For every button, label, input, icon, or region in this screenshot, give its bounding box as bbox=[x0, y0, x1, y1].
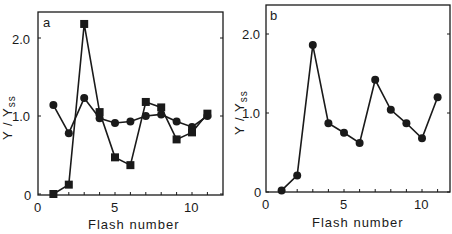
circle-marker bbox=[173, 117, 181, 125]
square-marker bbox=[49, 190, 57, 198]
y-axis-label-sub: ss bbox=[6, 95, 17, 107]
y-axis-label-main: Y / Y bbox=[0, 107, 15, 140]
panel-label: b bbox=[270, 8, 277, 23]
square-marker bbox=[80, 20, 88, 28]
y-axis-label-sub: ss bbox=[238, 90, 249, 102]
square-marker bbox=[111, 153, 119, 161]
x-tick-label: 10 bbox=[184, 200, 198, 215]
panel-label: a bbox=[43, 15, 51, 30]
square-marker bbox=[96, 108, 104, 116]
circle-marker bbox=[65, 129, 73, 137]
square-marker bbox=[65, 181, 73, 189]
circle-marker bbox=[340, 129, 348, 137]
data-series bbox=[49, 20, 211, 198]
square-marker bbox=[126, 161, 134, 169]
circle-marker bbox=[293, 171, 301, 179]
series-line-circles bbox=[282, 45, 438, 190]
square-marker bbox=[173, 135, 181, 143]
circle-marker bbox=[356, 139, 364, 147]
panel-a: a 0 5 10 0 1.0 2.0 Flash number Y / Yss bbox=[0, 12, 223, 232]
x-tick-label: 0 bbox=[34, 200, 41, 215]
circle-marker bbox=[371, 76, 379, 84]
x-tick-label: 5 bbox=[111, 200, 118, 215]
circle-marker bbox=[80, 94, 88, 102]
x-axis-label: Flash number bbox=[88, 217, 179, 232]
circle-marker bbox=[324, 119, 332, 127]
square-marker bbox=[203, 110, 211, 118]
circle-marker bbox=[49, 101, 57, 109]
y-tick-label: 2.0 bbox=[12, 32, 30, 47]
circle-marker bbox=[402, 119, 410, 127]
circle-marker bbox=[434, 93, 442, 101]
x-tick-label: 10 bbox=[414, 197, 428, 212]
circle-marker bbox=[111, 119, 119, 127]
circle-marker bbox=[387, 106, 395, 114]
x-tick-label: 0 bbox=[262, 197, 269, 212]
circle-marker bbox=[126, 117, 134, 125]
circle-marker bbox=[309, 41, 317, 49]
circle-marker bbox=[278, 186, 286, 194]
square-marker bbox=[142, 98, 150, 106]
y-tick-label: 0 bbox=[24, 188, 31, 203]
figure: a 0 5 10 0 1.0 2.0 Flash number Y / Yss … bbox=[0, 0, 452, 234]
y-axis-label: Y / Yss bbox=[0, 95, 17, 140]
x-tick-label: 5 bbox=[340, 197, 347, 212]
y-axis-label-main: Y / Y bbox=[232, 102, 247, 135]
y-tick-label: 0 bbox=[254, 185, 261, 200]
y-axis-label: Y / Yss bbox=[232, 90, 249, 135]
x-axis-label: Flash number bbox=[312, 215, 403, 230]
plot-frame bbox=[266, 5, 450, 192]
circle-marker bbox=[418, 134, 426, 142]
square-marker bbox=[157, 103, 165, 111]
y-ticks bbox=[266, 34, 450, 192]
y-tick-label: 2.0 bbox=[242, 27, 260, 42]
panel-b: b 0 5 10 0 1.0 2.0 Flash number Y / Yss bbox=[232, 5, 450, 230]
y-ticks bbox=[38, 38, 223, 194]
square-marker bbox=[188, 128, 196, 136]
data-series bbox=[278, 41, 442, 194]
